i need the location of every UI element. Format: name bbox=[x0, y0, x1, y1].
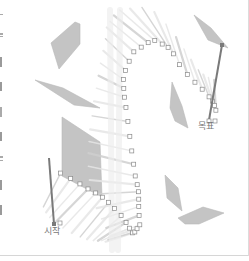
sample-marker bbox=[123, 95, 127, 99]
sample-marker bbox=[130, 149, 134, 153]
sample-marker bbox=[166, 45, 170, 49]
goal-label: 목표 bbox=[198, 121, 214, 131]
sample-marker bbox=[121, 78, 125, 82]
sample-marker bbox=[212, 103, 216, 107]
frame-border-right bbox=[248, 0, 249, 256]
sample-marker bbox=[126, 119, 130, 123]
sample-marker bbox=[160, 42, 164, 46]
sample-marker bbox=[146, 41, 150, 45]
start-label: 시작 bbox=[44, 226, 60, 236]
sample-marker bbox=[132, 162, 136, 166]
sample-marker bbox=[133, 174, 137, 178]
sample-marker bbox=[178, 63, 182, 67]
frame-border-bottom bbox=[0, 255, 249, 256]
sample-marker bbox=[132, 50, 136, 54]
sample-marker bbox=[135, 227, 139, 231]
sample-marker bbox=[124, 220, 128, 224]
sample-marker bbox=[86, 187, 90, 191]
sample-marker bbox=[153, 39, 157, 43]
sample-marker bbox=[207, 95, 211, 99]
obstacle-polygon bbox=[178, 207, 224, 224]
sample-marker bbox=[107, 200, 111, 204]
sample-marker bbox=[185, 72, 189, 76]
sample-marker bbox=[78, 182, 82, 186]
obstacle-polygon bbox=[165, 175, 182, 211]
sample-marker bbox=[127, 226, 131, 230]
sample-marker bbox=[113, 206, 117, 210]
sample-marker bbox=[138, 223, 142, 227]
sample-marker bbox=[94, 191, 98, 195]
sample-marker bbox=[139, 45, 143, 49]
sample-marker bbox=[122, 86, 126, 90]
sample-marker bbox=[137, 197, 141, 201]
sample-marker bbox=[137, 190, 141, 194]
sample-marker bbox=[171, 52, 175, 56]
obstacle-polygon bbox=[170, 82, 188, 128]
sample-marker bbox=[119, 214, 123, 218]
sample-marker bbox=[69, 176, 73, 180]
sample-marker bbox=[59, 171, 63, 175]
sample-marker bbox=[214, 108, 218, 112]
obstacle-polygon bbox=[51, 22, 80, 69]
sample-marker bbox=[135, 183, 139, 187]
sample-marker bbox=[200, 87, 204, 91]
sample-marker bbox=[128, 134, 132, 138]
sample-marker bbox=[193, 80, 197, 84]
sample-marker bbox=[127, 59, 131, 63]
sample-marker bbox=[124, 69, 128, 73]
sample-marker bbox=[124, 106, 128, 110]
sample-marker bbox=[137, 205, 141, 209]
obstacle-polygon bbox=[35, 80, 100, 108]
sample-marker bbox=[137, 213, 141, 217]
sample-marker bbox=[100, 195, 104, 199]
